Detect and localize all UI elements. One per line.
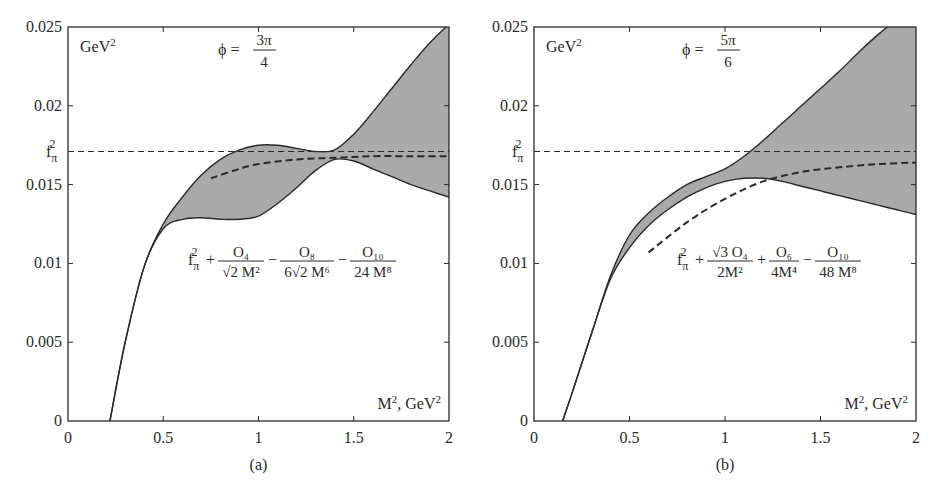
formula-sign: + [695,251,704,268]
x-unit-label: M2, GeV2 [845,393,908,412]
y-tick-label: 0.025 [26,18,62,35]
x-tick-label: 1 [721,429,729,446]
y-tick-label: 0.01 [34,254,62,271]
formula-denominator: 48 M⁸ [819,264,856,280]
formula-lead: fπ2 [677,245,688,273]
formula-denominator: √2 M² [222,264,260,280]
y-tick-label: 0 [520,412,528,429]
formula-denominator: 2M² [717,264,743,280]
fpi-sub: π [51,151,57,165]
y-tick-label: 0.005 [26,333,62,350]
chart-panel-a: 00.0050.010.0150.020.025fπ200.511.52GeV2… [26,18,453,474]
formula-sign: − [338,251,347,268]
x-tick-label: 1.5 [811,429,831,446]
fpi-sup: 2 [515,137,521,151]
x-tick-label: 2 [912,429,920,446]
phi-label: ϕ = [218,41,239,59]
formula-numerator: √3 O₄ [712,244,748,260]
phi-numerator: 5π [720,32,736,48]
y-tick-label: 0.015 [26,176,62,193]
formula-lead: fπ2 [188,245,199,273]
x-tick-label: 0.5 [153,429,173,446]
y-tick-label: 0.02 [500,97,528,114]
fpi-tick-label: fπ2 [512,137,523,165]
formula-denominator: 4M⁴ [771,264,797,280]
fpi-sub: π [517,151,523,165]
phi-denominator: 6 [724,54,732,70]
panel-caption: (a) [250,456,268,474]
formula-sign: + [757,251,766,268]
y-tick-label: 0.025 [492,18,528,35]
band-lower-curve [563,178,916,421]
fpi-tick-label: fπ2 [46,137,57,165]
formula-numerator: O₈ [299,244,315,260]
chart-panel-b: 00.0050.010.0150.020.025fπ200.511.52GeV2… [492,3,920,474]
formula-denominator: 24 M⁸ [354,264,391,280]
plot-area [68,24,449,421]
formula-numerator: O₁₀ [362,244,383,260]
y-tick-label: 0.01 [500,254,528,271]
x-tick-label: 1.5 [344,429,364,446]
x-tick-label: 2 [445,429,453,446]
axes-frame [68,27,449,421]
formula-numerator: O₆ [776,244,792,260]
figure-canvas: 00.0050.010.0150.020.025fπ200.511.52GeV2… [0,0,940,504]
formula-sign: − [803,251,812,268]
uncertainty-band [563,3,916,421]
phi-label: ϕ = [682,41,703,59]
x-tick-label: 1 [255,429,263,446]
x-tick-label: 0.5 [620,429,640,446]
phi-denominator: 4 [260,54,268,70]
y-unit-label: GeV2 [546,36,582,55]
formula-sign: − [268,251,277,268]
x-tick-label: 0 [64,429,72,446]
y-tick-label: 0 [54,412,62,429]
formula-numerator: O₄ [233,244,249,260]
uncertainty-band [110,24,449,421]
x-unit-label: M2, GeV2 [378,393,441,412]
formula-denominator: 6√2 M⁶ [284,264,330,280]
y-tick-label: 0.005 [492,333,528,350]
y-unit-label: GeV2 [80,36,116,55]
y-tick-label: 0.015 [492,176,528,193]
formula-sign: + [206,251,215,268]
x-tick-label: 0 [530,429,538,446]
panel-caption: (b) [716,456,735,474]
fpi-sup: 2 [49,137,55,151]
phi-numerator: 3π [256,32,272,48]
formula-numerator: O₁₀ [827,244,848,260]
y-tick-label: 0.02 [34,97,62,114]
